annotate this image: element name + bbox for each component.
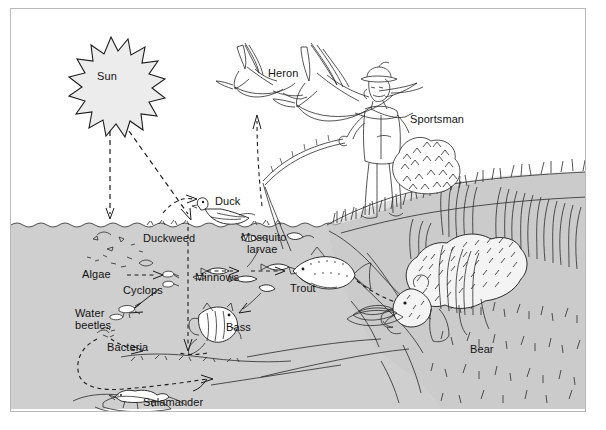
food-web-diagram: Sun Heron Sportsman Duck Duckweed Mosqui… (0, 0, 606, 430)
sun-illustration (69, 37, 165, 137)
diagram-frame: Sun Heron Sportsman Duck Duckweed Mosqui… (10, 8, 586, 412)
label-mosquito-larvae-line1: Mosquito (241, 231, 286, 243)
label-bear: Bear (470, 343, 494, 355)
label-heron: Heron (268, 67, 298, 79)
label-bacteria: Bacteria (107, 341, 148, 353)
sportsman-illustration (339, 62, 409, 218)
energy-arrow-duck-to-heron (253, 115, 262, 206)
label-sun: Sun (97, 70, 117, 82)
label-mosquito-larvae-line2: larvae (247, 243, 286, 255)
label-water-beetles-line1: Water (75, 307, 111, 319)
label-water-beetles-line2: beetles (75, 319, 111, 331)
heron-illustration (216, 43, 423, 121)
energy-arrow-to-duck (163, 195, 197, 213)
label-bass: Bass (226, 321, 251, 333)
label-salamander: Salamander (143, 396, 203, 408)
energy-arrow-sun-to-duckweed (129, 131, 191, 220)
label-cyclops: Cyclops (123, 284, 163, 296)
label-mosquito-larvae: Mosquito larvae (241, 231, 286, 255)
energy-arrow-sun-to-algae (106, 131, 114, 219)
label-duckweed: Duckweed (143, 232, 195, 244)
label-trout: Trout (290, 282, 316, 294)
label-duck: Duck (215, 195, 240, 207)
label-water-beetles: Water beetles (75, 307, 111, 331)
label-algae: Algae (82, 268, 111, 280)
label-sportsman: Sportsman (410, 113, 464, 125)
bush-illustration (393, 137, 460, 193)
label-minnows: Minnows (195, 271, 239, 283)
